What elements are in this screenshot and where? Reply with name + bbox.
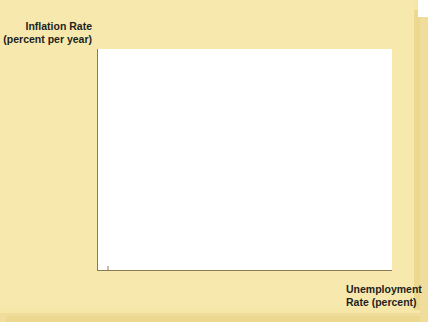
x-axis-title-line2: Rate (percent) <box>346 296 428 309</box>
y-axis-title-line2: (percent per year) <box>0 33 92 46</box>
x-axis-title-line1: Unemployment <box>346 283 428 296</box>
y-axis-title: Inflation Rate (percent per year) <box>0 20 92 46</box>
figure-edge-right <box>414 10 420 310</box>
y-axis-title-line1: Inflation Rate <box>0 20 92 33</box>
x-axis-title: Unemployment Rate (percent) <box>346 283 428 309</box>
figure-edge-bottom <box>6 316 420 322</box>
figure-corner-notch <box>418 0 428 17</box>
phillips-curve-figure: Inflation Rate (percent per year) Unempl… <box>0 0 428 333</box>
plot-area <box>97 49 392 271</box>
